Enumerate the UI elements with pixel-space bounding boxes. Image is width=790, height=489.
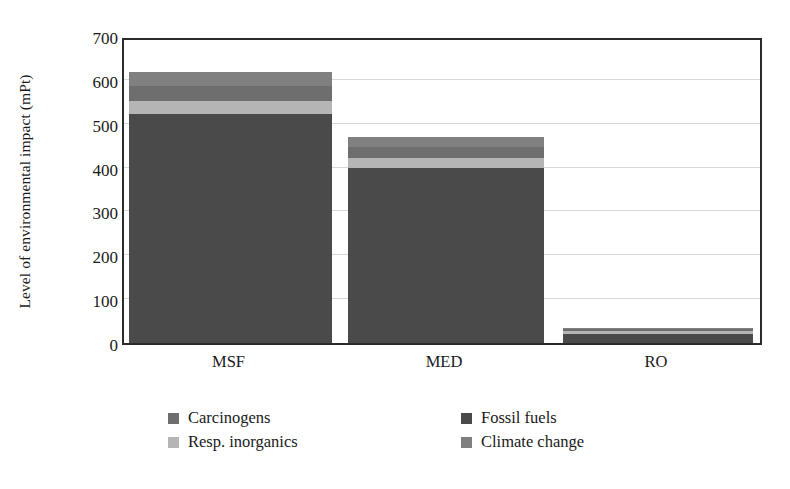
legend-label: Fossil fuels (481, 408, 557, 428)
legend-label: Climate change (481, 432, 584, 452)
y-tick-label: 700 (93, 30, 119, 47)
y-tick-label: 600 (93, 73, 119, 90)
legend-item[interactable]: Fossil fuels (461, 406, 628, 430)
bar-segment (129, 72, 332, 86)
legend-item[interactable]: Resp. inorganics (168, 430, 335, 454)
y-axis-tick-labels: 0100200300400500600700 (40, 0, 118, 489)
bar-segment (129, 86, 332, 101)
bar-segment (348, 137, 544, 147)
legend-item[interactable]: Carcinogens (168, 406, 335, 430)
bars-layer (124, 40, 760, 343)
bar-segment (348, 168, 544, 343)
bar-segment (348, 147, 544, 158)
x-tick-label-ro: RO (645, 352, 668, 372)
x-axis-tick-labels: MSFMEDRO (122, 352, 762, 380)
bar-segment (129, 114, 332, 343)
bar-segment (348, 158, 544, 168)
legend-label: Carcinogens (188, 408, 270, 428)
legend-swatch-icon (461, 437, 472, 448)
plot-area (122, 38, 762, 345)
y-tick-label: 300 (93, 205, 119, 222)
y-tick-label: 200 (93, 249, 119, 266)
bar-segment (563, 334, 753, 343)
legend-swatch-icon (168, 413, 179, 424)
bar-ro (563, 328, 753, 343)
legend-swatch-icon (168, 437, 179, 448)
legend: CarcinogensFossil fuelsResp. inorganicsC… (168, 406, 628, 454)
y-axis-title: Level of environmental impact (mPt) (12, 38, 38, 345)
bar-msf (129, 72, 332, 343)
x-tick-label-med: MED (426, 352, 463, 372)
y-tick-label: 500 (93, 117, 119, 134)
legend-item[interactable]: Climate change (461, 430, 628, 454)
y-tick-label: 100 (93, 293, 119, 310)
bar-segment (129, 101, 332, 114)
stacked-bar-chart: Level of environmental impact (mPt) 0100… (0, 0, 790, 489)
bar-med (348, 137, 544, 343)
y-tick-label: 400 (93, 161, 119, 178)
x-tick-label-msf: MSF (212, 352, 245, 372)
legend-label: Resp. inorganics (188, 432, 298, 452)
legend-swatch-icon (461, 413, 472, 424)
y-tick-label: 0 (110, 337, 119, 354)
